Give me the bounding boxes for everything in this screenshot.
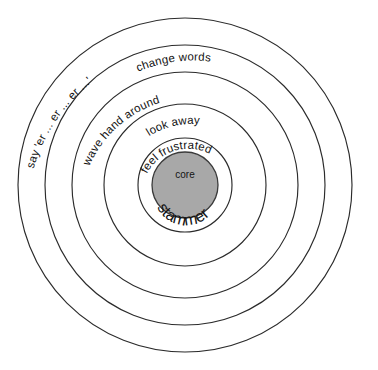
ring-label-2: look away <box>144 114 200 138</box>
rings-canvas: say 'er ... er ... er ...' change words … <box>0 0 378 370</box>
ring-label-4: change words <box>134 50 211 73</box>
ring-label-outer-5-text: say 'er ... er ... er ...' <box>24 74 93 169</box>
ring-label-4-text: change words <box>134 50 211 73</box>
concentric-rings-diagram: say 'er ... er ... er ...' change words … <box>0 0 378 370</box>
ring-label-outer-5: say 'er ... er ... er ...' <box>24 74 93 169</box>
ring-label-2-text: look away <box>144 114 200 138</box>
core-top-label: core <box>175 169 195 180</box>
